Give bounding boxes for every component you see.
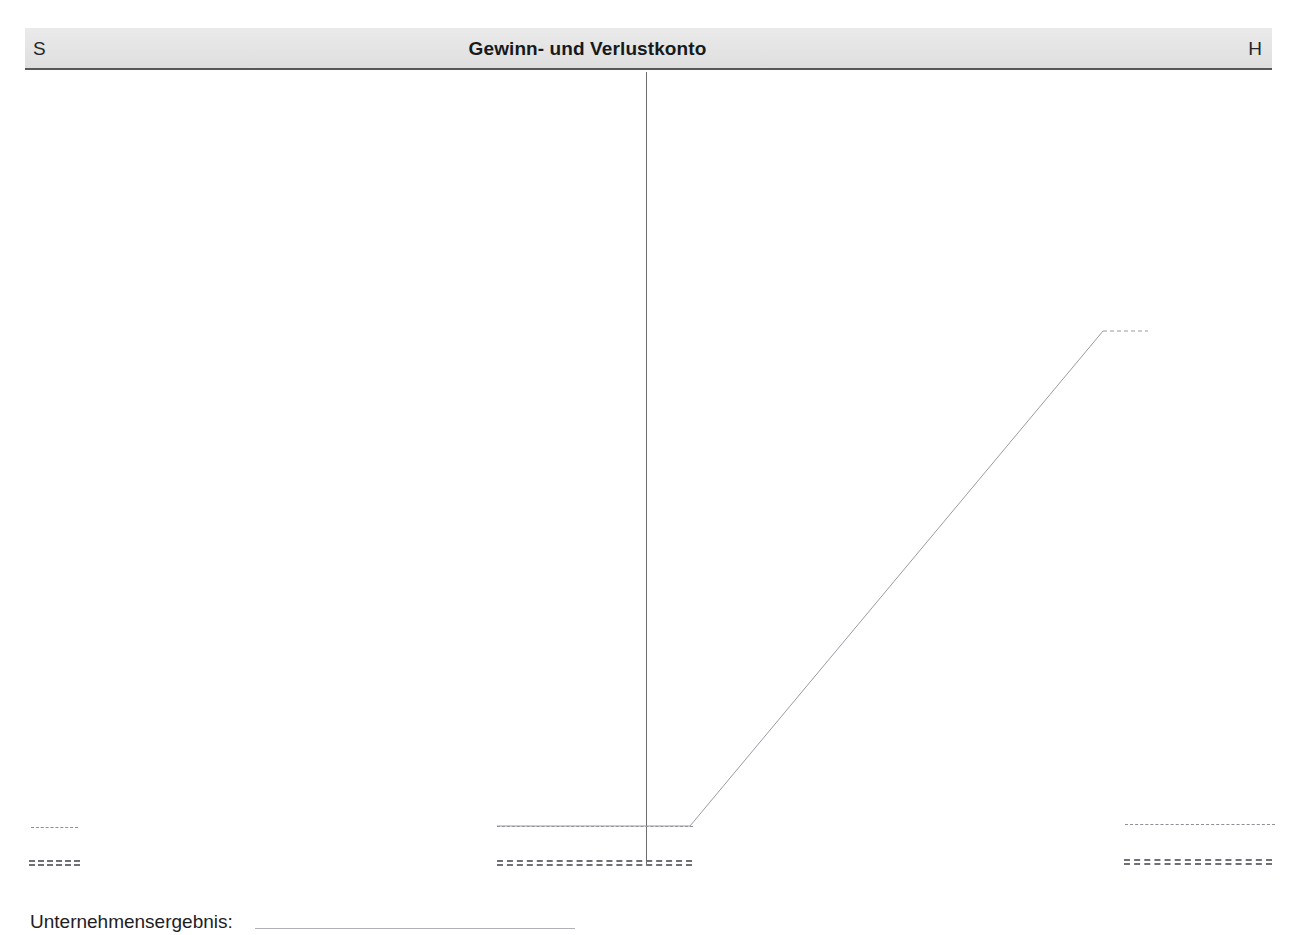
clipped-top-text: [30, 0, 1270, 2]
account-title: Gewinn- und Verlustkonto: [25, 39, 1272, 58]
account-header-band: S Gewinn- und Verlustkonto H: [25, 28, 1272, 70]
credit-amount-double-rule: [1124, 859, 1272, 865]
debit-amount-dashed-rule: [497, 826, 693, 827]
debit-amount-double-rule: [497, 860, 692, 866]
saldo-carry-forward-line: [0, 0, 1298, 935]
debit-left-dashed-rule: [31, 827, 78, 828]
unternehmensergebnis-label: Unternehmensergebnis:: [30, 912, 233, 931]
credit-amount-dashed-rule: [1125, 824, 1275, 825]
t-account-divider: [646, 72, 647, 865]
credit-side-label: H: [1248, 39, 1262, 58]
worksheet-page: S Gewinn- und Verlustkonto H Unternehmen…: [0, 0, 1298, 935]
unternehmensergebnis-row: Unternehmensergebnis:: [30, 905, 575, 931]
debit-left-double-rule: [29, 860, 80, 866]
unternehmensergebnis-input-rule[interactable]: [255, 928, 575, 929]
